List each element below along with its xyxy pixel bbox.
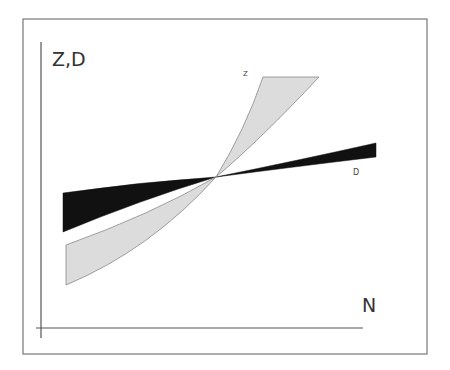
series-z-label: Z bbox=[243, 70, 248, 78]
y-axis-title: Z,D bbox=[52, 48, 86, 70]
series-d-label: D bbox=[353, 168, 359, 177]
chart: Z,D N Z D bbox=[0, 0, 450, 370]
x-axis-title: N bbox=[362, 294, 376, 316]
series-d-band bbox=[63, 143, 376, 232]
